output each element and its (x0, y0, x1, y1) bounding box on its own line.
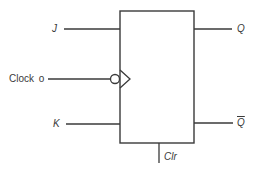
clock-inversion-bubble-icon (111, 75, 120, 84)
jk-flip-flop-diagram (0, 0, 255, 170)
j-label: J (52, 24, 57, 34)
clock-label: Clock o (9, 74, 44, 84)
clear-label: Clr (164, 152, 177, 162)
q-label: Q (237, 24, 245, 34)
q-bar-label: Q (237, 118, 245, 128)
k-label: K (53, 119, 60, 129)
clock-label-text: Clock (9, 73, 34, 84)
flip-flop-block (120, 11, 194, 143)
clock-terminal-symbol: o (39, 73, 45, 84)
